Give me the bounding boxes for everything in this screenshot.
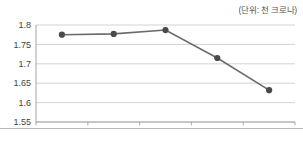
chart-canvas: 1.551.61.651.71.751.8 201120122013201420… [0,18,303,126]
y-axis-tick-label: 1.75 [13,40,31,50]
y-axis-tick-label: 1.6 [18,98,31,108]
bottom-divider [0,128,303,129]
data-point-marker [266,87,272,93]
data-series-line [62,30,269,90]
data-point-marker [59,32,65,38]
unit-note-label: (단위: 천 크로나) [238,3,297,15]
y-axis-tick-label: 1.65 [13,78,31,88]
data-point-marker [162,27,168,33]
y-axis-tick-labels: 1.551.61.651.71.751.8 [13,20,31,126]
plot-area: 1.551.61.651.71.751.8 201120122013201420… [0,18,303,126]
line-chart-figure: (단위: 천 크로나) 1.551.61.651.71.751.8 201120… [0,0,303,144]
series-polyline [62,30,269,90]
y-axis-tick-label: 1.8 [18,20,31,30]
y-axis-tick-label: 1.55 [13,117,31,126]
data-point-marker [111,31,117,37]
gridlines-group [36,25,295,122]
x-axis-tickmarks [36,122,295,126]
y-axis-tick-label: 1.7 [18,59,31,69]
data-point-marker [214,55,220,61]
